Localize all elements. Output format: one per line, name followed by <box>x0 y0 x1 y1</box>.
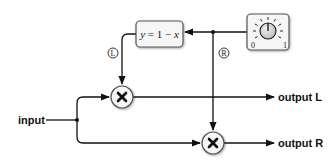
edge-input-to-multiplier-l <box>77 97 109 120</box>
output-l-label: output L <box>278 91 322 103</box>
panning-diagram: y = 1 − x 0 1 L R <box>0 0 334 162</box>
channel-label-right: R <box>219 48 229 58</box>
inverter-formula: y = 1 − x <box>139 28 179 40</box>
knob-min-label: 0 <box>251 41 255 50</box>
knob-node[interactable]: 0 1 <box>247 14 289 50</box>
knob-max-label: 1 <box>283 41 287 50</box>
svg-text:L: L <box>111 49 116 58</box>
edge-inverter-to-multiplier-l <box>122 34 136 84</box>
edge-input-to-multiplier-r <box>77 120 200 143</box>
output-r-label: output R <box>278 137 323 149</box>
multiplier-r-node <box>202 132 224 154</box>
input-label: input <box>18 114 45 126</box>
channel-label-left: L <box>108 48 118 58</box>
svg-text:R: R <box>221 49 227 58</box>
multiplier-l-node <box>111 86 133 108</box>
